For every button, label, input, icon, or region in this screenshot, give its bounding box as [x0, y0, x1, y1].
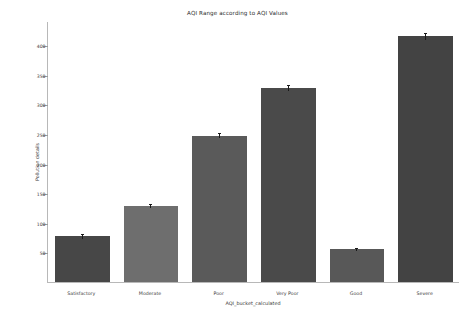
y-tick-label: 250: [37, 133, 46, 138]
error-bar-cap: [355, 248, 358, 249]
y-tick-label: 300: [37, 103, 46, 108]
y-tick-label: 400: [37, 44, 46, 49]
bar[interactable]: [398, 36, 453, 282]
error-bar: [425, 33, 426, 40]
bars-container: [48, 22, 459, 282]
bar[interactable]: [261, 88, 316, 282]
y-tick-label: 100: [37, 221, 46, 226]
x-tick-label: Poor: [213, 291, 223, 296]
error-bar-cap: [149, 204, 152, 205]
bar[interactable]: [124, 206, 179, 282]
error-bar-cap: [287, 85, 290, 86]
x-tick-label: Good: [350, 291, 362, 296]
bar[interactable]: [330, 249, 385, 282]
chart-figure: AQI Range according to AQI Values Pollut…: [0, 0, 475, 324]
x-axis-label: AQI_bucket_calculated: [47, 300, 459, 306]
x-tick-label: Very Poor: [276, 291, 298, 296]
bar[interactable]: [192, 136, 247, 282]
y-tick-label: 350: [37, 73, 46, 78]
plot-area: 50100150200250300350400: [47, 22, 459, 283]
y-tick-label: 150: [37, 192, 46, 197]
error-bar-cap: [218, 133, 221, 134]
y-tick-label: 50: [40, 251, 46, 256]
y-tick-label: 200: [37, 162, 46, 167]
bar[interactable]: [55, 236, 110, 282]
x-tick-label: Severe: [417, 291, 433, 296]
x-tick-label: Satisfactory: [67, 291, 95, 296]
x-tick-label: Moderate: [139, 291, 161, 296]
chart-title: AQI Range according to AQI Values: [0, 10, 475, 16]
error-bar-cap: [81, 234, 84, 235]
error-bar-cap: [424, 33, 427, 34]
